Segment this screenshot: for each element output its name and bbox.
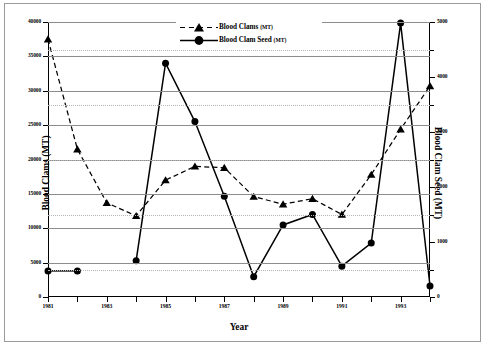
y-axis-left-tick xyxy=(43,56,48,57)
gridline xyxy=(48,56,430,57)
y-axis-left-tick-label: 30000 xyxy=(28,88,41,93)
y-axis-right-minor-tick xyxy=(430,50,434,51)
gridline xyxy=(48,91,430,92)
y-axis-right-tick-label: 4000 xyxy=(437,74,447,79)
x-axis-tick xyxy=(107,297,108,302)
legend-item-blood-clam-seed: Blood Clam Seed (MT) xyxy=(179,34,319,47)
y-axis-left-tick-label: 25000 xyxy=(28,122,41,127)
gridline xyxy=(48,228,430,229)
gridline xyxy=(48,263,430,264)
x-axis-tick-label: 1983 xyxy=(101,304,112,310)
legend-label-blood-clams: Blood Clams (MT) xyxy=(219,24,273,31)
x-axis-tick-label: 1985 xyxy=(160,304,171,310)
gridline-minor xyxy=(48,270,430,271)
x-axis-tick xyxy=(166,297,167,302)
y-axis-left-tick-label: 35000 xyxy=(28,54,41,59)
y-axis-right-tick-label: 5000 xyxy=(437,19,447,24)
y-axis-right-tick xyxy=(430,242,435,243)
y-axis-left-tick xyxy=(43,91,48,92)
y-axis-left-tick xyxy=(43,263,48,264)
x-axis-tick xyxy=(254,297,255,302)
y-axis-left-tick xyxy=(43,228,48,229)
x-axis-tick xyxy=(342,297,343,302)
legend-key-triangle-dashed xyxy=(179,21,219,34)
x-axis-tick-label: 1987 xyxy=(219,304,230,310)
legend-key-circle-solid xyxy=(179,34,219,47)
x-axis-tick xyxy=(224,297,225,302)
gridline-minor xyxy=(48,215,430,216)
x-axis-tick xyxy=(312,297,313,302)
y-axis-left-tick xyxy=(43,194,48,195)
y-axis-right-minor-tick xyxy=(430,215,434,216)
x-axis-tick xyxy=(283,297,284,302)
x-axis-tick xyxy=(48,297,49,302)
y-axis-right-tick xyxy=(430,77,435,78)
x-axis-tick xyxy=(77,297,78,302)
legend-label-blood-clam-seed: Blood Clam Seed (MT) xyxy=(219,37,286,44)
gridline-minor xyxy=(48,160,430,161)
x-axis-tick xyxy=(401,297,402,302)
y-axis-left-tick xyxy=(43,160,48,161)
x-axis-title: Year xyxy=(230,322,249,332)
x-axis-tick-label: 1991 xyxy=(336,304,347,310)
gridline xyxy=(48,194,430,195)
y-axis-right-minor-tick xyxy=(430,270,434,271)
y-axis-right-tick xyxy=(430,132,435,133)
y-axis-right-title: Blood Clam Seed (MT) xyxy=(433,127,443,219)
y-axis-right-minor-tick xyxy=(430,160,434,161)
x-axis-tick xyxy=(136,297,137,302)
y-axis-right-tick xyxy=(430,187,435,188)
y-axis-left-tick-label: 15000 xyxy=(28,191,41,196)
y-axis-right-tick xyxy=(430,22,435,23)
y-axis-right-tick-label: 2000 xyxy=(437,184,447,189)
x-axis-tick-label: 1993 xyxy=(395,304,406,310)
chart-figure: Blood Clams (MT) Blood Clam Seed (MT) Ye… xyxy=(0,0,486,346)
y-axis-left-tick-label: 40000 xyxy=(28,19,41,24)
y-axis-left-tick-label: 10000 xyxy=(28,226,41,231)
y-axis-left-tick xyxy=(43,125,48,126)
x-axis-tick-label: 1981 xyxy=(42,304,53,310)
chart-legend: Blood Clams (MT) Blood Clam Seed (MT) xyxy=(176,19,322,49)
x-axis-tick xyxy=(195,297,196,302)
y-axis-right-tick-label: 3000 xyxy=(437,129,447,134)
legend-item-blood-clams: Blood Clams (MT) xyxy=(179,21,319,34)
y-axis-right-minor-tick xyxy=(430,105,434,106)
x-axis-tick-label: 1989 xyxy=(277,304,288,310)
gridline xyxy=(48,125,430,126)
y-axis-right-tick-label: 0 xyxy=(437,294,440,299)
y-axis-left-tick-label: 0 xyxy=(38,294,41,299)
y-axis-left-tick-label: 5000 xyxy=(31,260,41,265)
x-axis-tick xyxy=(430,297,431,302)
gridline-minor xyxy=(48,105,430,106)
y-axis-right-tick-label: 1000 xyxy=(437,239,447,244)
gridline-minor xyxy=(48,50,430,51)
x-axis-tick xyxy=(371,297,372,302)
y-axis-left-tick-label: 20000 xyxy=(28,157,41,162)
y-axis-left-tick xyxy=(43,22,48,23)
plot-area: 0500010000150002000025000300003500040000… xyxy=(48,22,430,297)
